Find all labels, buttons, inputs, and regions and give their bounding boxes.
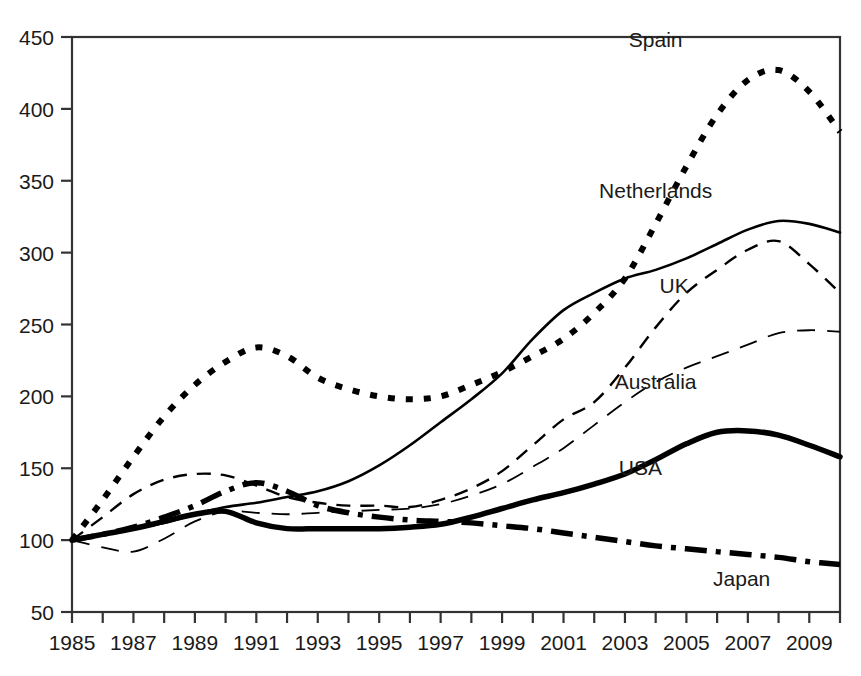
- y-axis-tick-labels: 50100150200250300350400450: [19, 26, 54, 624]
- x-tick-label: 1999: [479, 631, 526, 654]
- y-tick-label: 150: [19, 457, 54, 480]
- y-tick-label: 400: [19, 98, 54, 121]
- series-label-australia: Australia: [615, 370, 697, 393]
- x-tick-label: 2003: [602, 631, 649, 654]
- x-tick-label: 1993: [294, 631, 341, 654]
- line-chart: 50100150200250300350400450 1985198719891…: [0, 0, 861, 676]
- series-label-japan: Japan: [713, 567, 770, 590]
- series-label-usa: USA: [619, 456, 662, 479]
- y-tick-label: 250: [19, 314, 54, 337]
- x-tick-label: 2007: [724, 631, 771, 654]
- x-tick-label: 2009: [786, 631, 833, 654]
- y-tick-label: 350: [19, 170, 54, 193]
- x-tick-label: 2001: [540, 631, 587, 654]
- chart-container: 50100150200250300350400450 1985198719891…: [0, 0, 861, 676]
- y-tick-label: 200: [19, 385, 54, 408]
- x-tick-label: 1987: [110, 631, 157, 654]
- series-label-netherlands: Netherlands: [599, 179, 712, 202]
- x-tick-label: 1989: [172, 631, 219, 654]
- series-label-spain: Spain: [629, 28, 683, 51]
- y-tick-label: 50: [31, 601, 54, 624]
- x-tick-label: 1991: [233, 631, 280, 654]
- x-tick-label: 1997: [417, 631, 464, 654]
- x-tick-label: 1995: [356, 631, 403, 654]
- x-tick-label: 2005: [663, 631, 710, 654]
- y-tick-label: 100: [19, 529, 54, 552]
- x-tick-label: 1985: [49, 631, 96, 654]
- y-tick-label: 300: [19, 242, 54, 265]
- y-tick-label: 450: [19, 26, 54, 49]
- series-label-uk: UK: [660, 274, 689, 297]
